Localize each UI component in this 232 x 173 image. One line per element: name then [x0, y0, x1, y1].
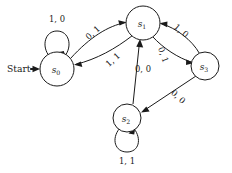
- transition-label-s3-s2: 0, 0: [169, 88, 188, 106]
- state-label-s3-sub: 3: [204, 65, 208, 72]
- transition-label-s2-s1: 0, 0: [135, 64, 151, 74]
- edge-s1-s0-arrow: [74, 62, 82, 67]
- transition-s0-s1: [71, 20, 127, 58]
- state-node-s0[interactable]: s0: [40, 52, 74, 86]
- state-node-s2[interactable]: s2: [113, 104, 141, 132]
- start-marker: [30, 66, 40, 72]
- fsm-diagram: Start: [0, 0, 232, 173]
- transition-label-s0-s1: 0, 1: [83, 24, 102, 42]
- transition-label-s0-s0: 1, 0: [49, 14, 65, 24]
- edge-s3-s1-arrow: [160, 22, 168, 28]
- state-label-s2-sub: 2: [126, 117, 130, 124]
- transition-label-s1-s0: 1, 1: [103, 51, 122, 69]
- transition-label-s3-s1: 1, 0: [172, 22, 191, 40]
- state-node-s3[interactable]: s3: [191, 52, 219, 80]
- fsm-canvas: Start: [0, 0, 232, 173]
- start-label: Start: [7, 63, 31, 74]
- state-label-s0-sub: 0: [56, 68, 60, 75]
- start-arrow-head: [33, 66, 41, 72]
- state-label-s1-sub: 1: [142, 22, 146, 29]
- transition-label-s1-s3: 0, 1: [156, 46, 171, 64]
- state-node-s1[interactable]: s1: [126, 6, 160, 40]
- transition-label-s2-s2: 1, 1: [119, 156, 135, 166]
